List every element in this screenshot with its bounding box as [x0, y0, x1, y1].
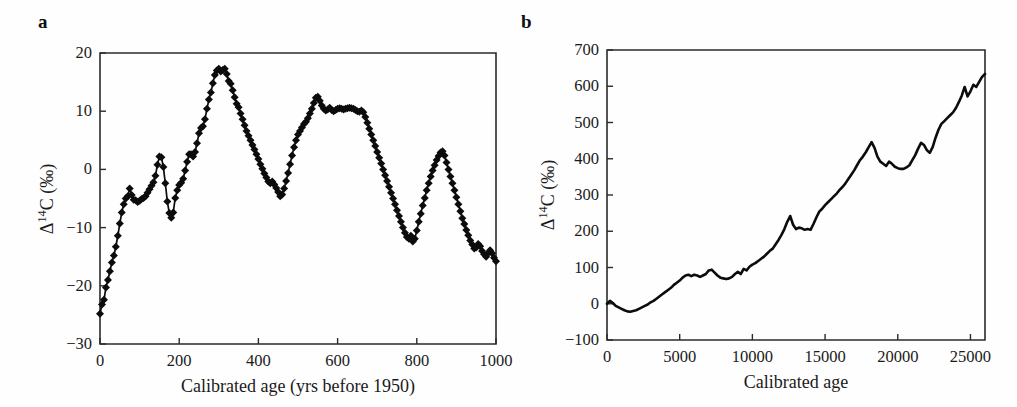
data-point-marker — [443, 158, 451, 166]
y-tick-label: 200 — [551, 223, 599, 240]
data-point-marker — [201, 115, 209, 123]
plot-frame — [100, 53, 496, 344]
data-point-marker — [104, 276, 112, 284]
data-series-line — [607, 74, 985, 312]
data-point-marker — [112, 243, 120, 251]
x-tick-label: 0 — [96, 353, 104, 370]
data-point-marker — [425, 179, 433, 187]
panel-b: b Calibrated age Δ14C (‰) −1000100200300… — [509, 0, 1017, 407]
data-point-marker — [126, 185, 134, 193]
y-tick-label: 10 — [44, 103, 92, 120]
data-point-marker — [454, 200, 462, 208]
data-point-marker — [229, 86, 237, 94]
data-point-marker — [423, 186, 431, 194]
data-point-marker — [106, 267, 114, 275]
data-point-marker — [290, 143, 298, 151]
data-point-marker — [288, 151, 296, 159]
data-point-marker — [450, 186, 458, 194]
data-point-marker — [282, 177, 290, 185]
data-point-marker — [417, 210, 425, 218]
x-tick-label: 400 — [246, 353, 271, 370]
x-tick-label: 800 — [404, 353, 429, 370]
y-tick-label: 0 — [44, 161, 92, 178]
data-point-marker — [444, 165, 452, 173]
data-point-marker — [96, 310, 104, 318]
data-point-marker — [205, 96, 213, 104]
x-tick-label: 5000 — [663, 349, 696, 366]
data-point-marker — [183, 158, 191, 166]
x-tick-label: 1000 — [480, 353, 513, 370]
figure-container: a Calibrated age (yrs before 1950) Δ14C … — [0, 0, 1017, 407]
y-tick-label: 20 — [44, 45, 92, 62]
data-point-marker — [108, 259, 116, 267]
y-tick-label: 0 — [551, 296, 599, 313]
x-tick-label: 20000 — [877, 349, 918, 366]
data-point-marker — [415, 218, 423, 226]
data-point-marker — [446, 172, 454, 180]
y-tick-label: −20 — [44, 278, 92, 295]
data-point-marker — [209, 79, 217, 87]
panel-b-x-axis-title: Calibrated age — [744, 373, 848, 391]
y-tick-label: 600 — [551, 78, 599, 95]
y-tick-label: 300 — [551, 187, 599, 204]
data-point-marker — [207, 89, 215, 97]
data-point-marker — [102, 284, 110, 292]
y-tick-label: 400 — [551, 151, 599, 168]
data-point-marker — [118, 208, 126, 216]
y-tick-label: 700 — [551, 42, 599, 59]
data-point-marker — [163, 197, 171, 205]
panel-a-y-axis-title: Δ14C (‰) — [38, 53, 56, 344]
data-point-marker — [193, 139, 201, 147]
plot-frame — [607, 50, 985, 340]
data-point-marker — [114, 232, 122, 240]
data-point-marker — [284, 169, 292, 177]
x-tick-label: 15000 — [804, 349, 845, 366]
x-tick-label: 25000 — [950, 349, 991, 366]
data-point-marker — [419, 201, 427, 209]
y-tick-label: 500 — [551, 114, 599, 131]
data-point-marker — [116, 220, 124, 228]
data-point-marker — [286, 160, 294, 168]
x-tick-label: 10000 — [732, 349, 773, 366]
data-point-marker — [456, 207, 464, 215]
data-point-marker — [231, 93, 239, 101]
panel-a: a Calibrated age (yrs before 1950) Δ14C … — [0, 0, 509, 407]
data-point-marker — [452, 193, 460, 201]
x-tick-label: 0 — [603, 349, 611, 366]
data-point-marker — [110, 252, 118, 260]
y-tick-label: 100 — [551, 259, 599, 276]
data-point-marker — [151, 172, 159, 180]
data-point-marker — [161, 179, 169, 187]
data-series-line — [100, 69, 496, 314]
data-point-marker — [171, 194, 179, 202]
data-point-marker — [413, 227, 421, 235]
y-axis-superscript: 14 — [536, 206, 550, 218]
y-tick-label: −100 — [551, 332, 599, 349]
data-point-marker — [421, 194, 429, 202]
panel-a-x-axis-title: Calibrated age (yrs before 1950) — [181, 377, 415, 395]
data-point-marker — [203, 105, 211, 113]
data-point-marker — [448, 179, 456, 187]
y-tick-label: −10 — [44, 219, 92, 236]
x-tick-label: 200 — [167, 353, 192, 370]
y-tick-label: −30 — [44, 336, 92, 353]
x-tick-label: 600 — [325, 353, 350, 370]
data-point-marker — [181, 167, 189, 175]
